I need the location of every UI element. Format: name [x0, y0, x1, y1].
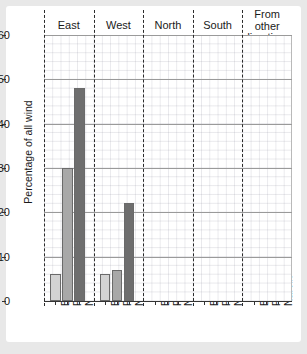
bar	[62, 168, 73, 301]
gridline-major	[44, 35, 292, 36]
group-header: South	[193, 20, 243, 32]
y-tick-mark	[2, 124, 6, 125]
y-tick-mark	[2, 79, 6, 80]
gridline-major	[44, 79, 292, 80]
group-header-line: South	[193, 20, 243, 32]
bar	[74, 88, 85, 301]
bar	[124, 203, 135, 301]
group-separator	[193, 10, 194, 306]
group-separator	[94, 10, 95, 306]
group-separator	[242, 10, 243, 306]
chart-figure: Percentage of all wind 0102030405060 Eas…	[6, 6, 301, 342]
x-axis-line	[44, 301, 292, 302]
group-header: North	[143, 20, 193, 32]
y-tick-mark	[2, 301, 6, 302]
bar	[50, 274, 61, 301]
group-separator	[143, 10, 144, 306]
y-tick-mark	[2, 168, 6, 169]
plot-area	[44, 35, 292, 301]
y-tick-mark	[2, 257, 6, 258]
group-header: West	[94, 20, 144, 32]
bar	[112, 270, 123, 301]
group-separator	[44, 10, 45, 306]
group-header: East	[44, 20, 94, 32]
group-header-line: West	[94, 20, 144, 32]
y-tick-mark	[2, 35, 6, 36]
group-header-line: North	[143, 20, 193, 32]
bar	[100, 274, 111, 301]
group-header-line: East	[44, 20, 94, 32]
y-axis-title: Percentage of all wind	[22, 67, 34, 237]
group-header-line: From other	[242, 9, 292, 32]
y-tick-mark	[2, 212, 6, 213]
